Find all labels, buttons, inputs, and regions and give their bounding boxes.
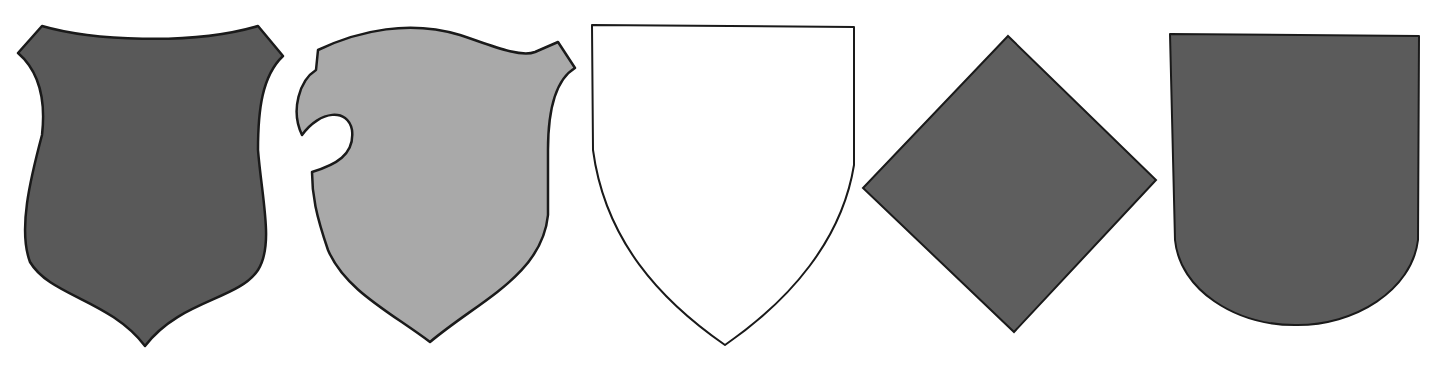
shield-rounded-base bbox=[1150, 0, 1438, 369]
shield-heater-white bbox=[580, 0, 870, 369]
shield-dark-cusped-icon bbox=[0, 0, 300, 369]
shield-lozenge-icon bbox=[850, 0, 1170, 369]
shield-bouche-light bbox=[280, 0, 590, 369]
shield-heater-white-icon bbox=[580, 0, 870, 369]
shield-shapes-figure bbox=[0, 0, 1438, 369]
shield-dark-cusped bbox=[0, 0, 300, 369]
shield-lozenge bbox=[850, 0, 1170, 369]
shield-bouche-light-icon bbox=[280, 0, 590, 369]
shield-rounded-base-icon bbox=[1150, 0, 1438, 369]
